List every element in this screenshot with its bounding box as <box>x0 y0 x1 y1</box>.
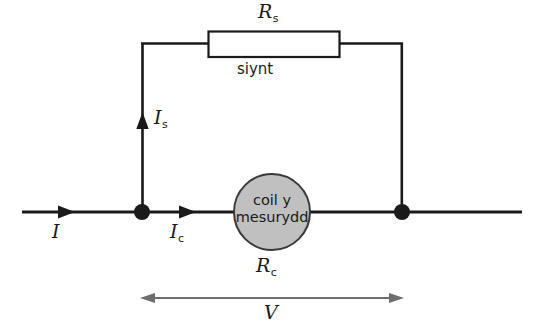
shunt-resistor-symbol-label: Rs <box>258 2 278 22</box>
current-arrow-shunt <box>136 112 148 129</box>
shunt-current-letter: I <box>154 106 162 128</box>
total-current-letter: I <box>52 220 60 242</box>
shunt-current-label: Is <box>154 108 167 128</box>
voltage-label: V <box>264 303 278 323</box>
shunt-resistor-box <box>209 32 340 58</box>
shunt-resistor-symbol-letter: R <box>258 0 272 22</box>
voltage-arrowhead-right <box>389 293 404 303</box>
circuit-diagram: Rs siynt Is I Ic coil y mesurydd Rc V <box>0 0 543 328</box>
shunt-resistor-caption: siynt <box>237 62 273 78</box>
shunt-current-subscript: s <box>162 118 168 131</box>
current-arrow-coil <box>179 206 196 219</box>
coil-current-letter: I <box>170 220 178 242</box>
meter-coil-caption-line2: mesurydd <box>232 209 312 226</box>
meter-coil-caption-line1: coil y <box>232 192 312 209</box>
coil-resistance-symbol-label: Rc <box>256 256 276 276</box>
voltage-arrowhead-left <box>140 293 155 303</box>
meter-coil-caption: coil y mesurydd <box>232 192 312 225</box>
coil-current-label: Ic <box>170 222 184 242</box>
coil-current-subscript: c <box>178 232 184 245</box>
shunt-resistor-symbol-subscript: s <box>273 12 279 25</box>
junction-dot-left <box>134 204 150 220</box>
total-current-label: I <box>52 222 60 242</box>
coil-resistance-symbol-subscript: c <box>271 266 277 279</box>
coil-resistance-symbol-letter: R <box>256 254 270 276</box>
junction-dot-right <box>394 204 410 220</box>
voltage-letter: V <box>264 301 278 323</box>
current-arrow-total <box>58 206 75 219</box>
